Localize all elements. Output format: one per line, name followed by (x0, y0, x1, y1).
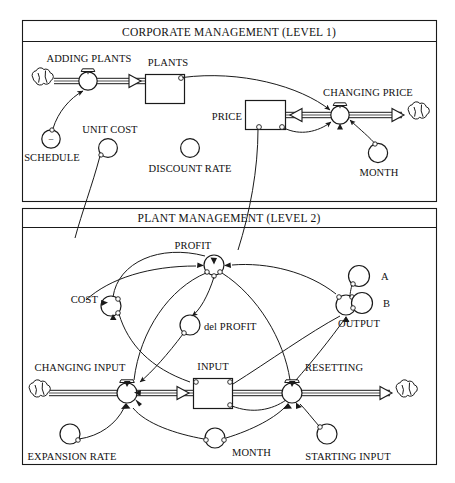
aux-discount-rate[interactable]: DISCOUNT RATE (148, 139, 231, 174)
aux-label-starting-input: STARTING INPUT (305, 451, 391, 462)
cloud-sink-changing-price (408, 102, 429, 119)
stock-price[interactable]: PRICE (212, 101, 286, 130)
connector-output-out (337, 295, 342, 300)
aux-label-b: B (383, 298, 390, 309)
aux-label-discount-rate: DISCOUNT RATE (148, 163, 231, 174)
link-starting-input-to-resetting (300, 404, 319, 426)
cloud-source-adding-plants (32, 68, 53, 85)
aux-cost[interactable]: COST (71, 294, 121, 316)
flow-changing-input[interactable]: CHANGING INPUT (35, 362, 193, 403)
link-cost-to-profit (86, 266, 196, 300)
link-price-to-changing-price (284, 122, 331, 132)
flow-label-changing-price: CHANGING PRICE (323, 87, 413, 98)
aux-label-cost: COST (71, 294, 99, 305)
profit-arrow-left (197, 263, 204, 269)
link-expansion-rate-to-changing-input (79, 408, 124, 439)
link-unit-cost-to-cost (75, 156, 100, 238)
stock-label-input: INPUT (197, 361, 229, 372)
aux-a[interactable]: A (349, 266, 390, 287)
aux-b[interactable]: B (351, 293, 390, 314)
connector-b-out (351, 306, 356, 311)
link-price-to-profit (238, 129, 258, 250)
aux-del-profit[interactable]: del PROFIT (180, 315, 257, 335)
stock-input[interactable]: INPUT (194, 361, 233, 409)
connector-price-out-right (280, 125, 285, 130)
panel-level2: PLANT MANAGEMENT (LEVEL 2) PROFIT COST (23, 209, 437, 465)
profit-arrow-right (224, 263, 231, 269)
flow-label-resetting: RESETTING (305, 362, 363, 373)
aux-label-profit: PROFIT (175, 240, 212, 251)
aux-label-unit-cost: UNIT COST (82, 124, 138, 135)
link-output-to-profit (232, 264, 336, 294)
cloud-source-changing-input (29, 380, 50, 397)
connector-input-in (194, 380, 199, 385)
connector-month-level2-out-left (204, 438, 209, 443)
flow-changing-price[interactable]: CHANGING PRICE (286, 87, 413, 124)
flow-adding-plants[interactable]: ADDING PLANTS (46, 53, 145, 90)
link-profit-to-del-profit (192, 277, 214, 316)
aux-label-expansion-rate: EXPANSION RATE (28, 451, 117, 462)
panel-level1-title: CORPORATE MANAGEMENT (LEVEL 1) (122, 26, 336, 39)
aux-label-a: A (381, 271, 389, 282)
connector-plants-out (179, 76, 184, 81)
schedule-sign: − (48, 134, 54, 145)
connector-profit-in-right (218, 270, 223, 275)
aux-month-level2[interactable]: MONTH (204, 428, 272, 458)
aux-expansion-rate[interactable]: EXPANSION RATE (28, 424, 117, 462)
link-cost-loop-to-profit (113, 252, 205, 297)
link-schedule-to-adding-plants (53, 91, 83, 129)
changing-input-arrow-br (135, 399, 142, 407)
link-input-bottom-to-resetting (232, 400, 286, 410)
diagram-canvas: CORPORATE MANAGEMENT (LEVEL 1) ADDING PL… (0, 0, 455, 483)
aux-schedule[interactable]: − SCHEDULE (24, 128, 80, 163)
link-month-to-changing-input (133, 408, 204, 439)
aux-label-del-profit: del PROFIT (204, 321, 257, 332)
link-month-to-resetting (226, 404, 288, 438)
aux-starting-input[interactable]: STARTING INPUT (305, 424, 391, 462)
aux-label-month-level2: MONTH (232, 447, 271, 458)
aux-month-level1[interactable]: MONTH (360, 142, 399, 178)
panel-level2-title: PLANT MANAGEMENT (LEVEL 2) (138, 212, 321, 225)
connector-cost-out (116, 297, 121, 302)
aux-label-month-level1: MONTH (360, 167, 399, 178)
stock-label-price: PRICE (212, 111, 242, 122)
cloud-sink-resetting (396, 380, 417, 397)
aux-label-schedule: SCHEDULE (24, 152, 80, 163)
aux-unit-cost[interactable]: UNIT COST (82, 124, 138, 157)
link-input-to-cost (119, 314, 190, 382)
flow-label-adding-plants: ADDING PLANTS (46, 53, 131, 64)
panel-level1: CORPORATE MANAGEMENT (LEVEL 1) ADDING PL… (23, 21, 437, 202)
connector-input-out-top (228, 380, 233, 385)
changing-input-arrow-bottom (121, 403, 131, 409)
connector-schedule-out (50, 128, 54, 132)
stock-label-plants: PLANTS (148, 57, 188, 68)
connector-month-level2-out-right (222, 438, 227, 443)
connector-price-out-bottom (257, 125, 262, 130)
system-dynamics-diagram: CORPORATE MANAGEMENT (LEVEL 1) ADDING PL… (0, 0, 455, 483)
aux-profit[interactable]: PROFIT (175, 240, 224, 278)
stock-plants[interactable]: PLANTS (146, 57, 189, 104)
flow-label-changing-input: CHANGING INPUT (35, 362, 126, 373)
connector-input-out-bottom (228, 403, 233, 408)
link-month-to-changing-price (350, 120, 374, 143)
connector-expansion-rate-out (76, 438, 81, 443)
